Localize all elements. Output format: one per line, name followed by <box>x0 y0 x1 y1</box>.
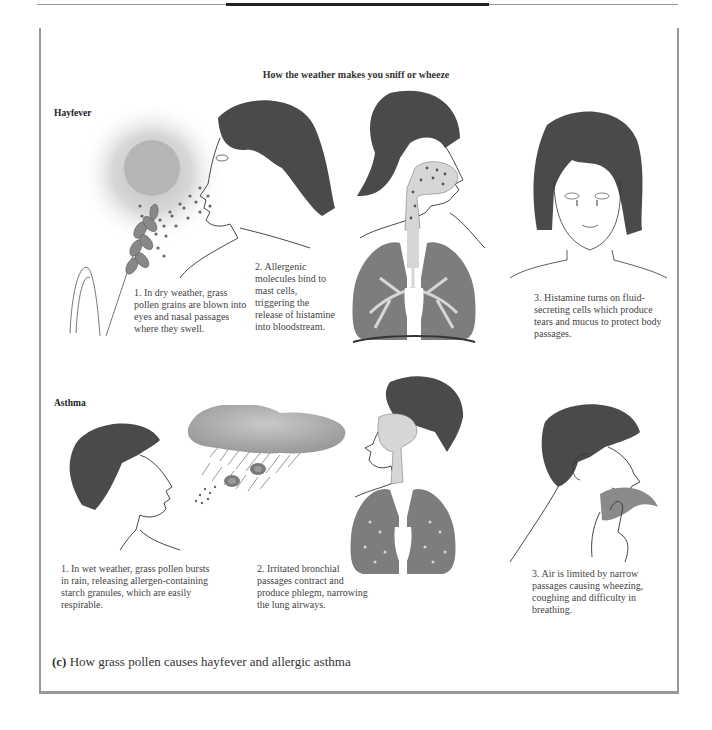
coughing-boy-icon <box>510 404 640 562</box>
boy-profile-icon <box>70 424 180 550</box>
hayfever-step2-illustration <box>345 88 495 348</box>
hayfever-step3-caption: 3. Histamine turns on fluid-secreting ce… <box>534 292 664 340</box>
nasal-airway-icon <box>405 162 458 230</box>
figure-title: How the weather makes you sniff or wheez… <box>0 69 712 80</box>
hayfever-step2-caption: 2. Allergenic molecules bind to mast cel… <box>255 261 335 333</box>
asthma-step2-illustration <box>345 372 495 582</box>
hayfever-step1-caption: 1. In dry weather, grass pollen grains a… <box>134 287 254 335</box>
trachea-icon <box>407 228 419 268</box>
asthma-step1-caption: 1. In wet weather, grass pollen bursts i… <box>61 563 211 611</box>
asthma-step3-illustration <box>500 392 680 572</box>
top-rule-accent <box>226 3 489 6</box>
asthma-step2-caption: 2. Irritated bronchial passages contract… <box>257 563 372 611</box>
granule-spray-icon <box>195 486 216 504</box>
hayfever-step3-illustration <box>502 100 672 280</box>
asthma-step3-caption: 3. Air is limited by narrow passages cau… <box>532 568 662 616</box>
lungs-icon <box>351 489 456 574</box>
asthma-step1-illustration <box>60 405 360 555</box>
figure-caption: (c) How grass pollen causes hayfever and… <box>52 654 351 670</box>
starch-granule-icon <box>224 463 266 487</box>
figure-caption-text: How grass pollen causes hayfever and all… <box>70 654 351 669</box>
figure-caption-letter: (c) <box>52 654 66 669</box>
crying-woman-icon <box>510 111 667 278</box>
handkerchief-icon <box>600 488 658 521</box>
nasal-airway-icon <box>378 414 417 484</box>
rain-cloud-icon <box>188 405 346 453</box>
